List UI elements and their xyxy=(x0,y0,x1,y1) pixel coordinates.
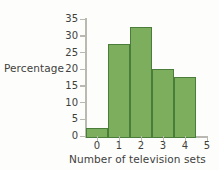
y-tick-label-10-wrap: 10 xyxy=(58,98,78,108)
y-tick-label-15-wrap: 15 xyxy=(58,81,78,91)
y-tick-label-30: 30 xyxy=(58,31,78,41)
y-tick-label-20-wrap: 20 xyxy=(58,64,78,74)
x-tick-label-2: 2 xyxy=(133,140,149,152)
x-tick-label-5: 5 xyxy=(199,140,215,152)
y-tick-label-15: 15 xyxy=(58,81,78,91)
x-tick-label-3-wrap: 3 xyxy=(155,140,171,152)
y-tick-label-5: 5 xyxy=(58,114,78,124)
x-tick-label-0-wrap: 0 xyxy=(89,140,105,152)
bar-3 xyxy=(152,69,174,137)
bar-1 xyxy=(108,44,130,138)
x-tick-label-2-wrap: 2 xyxy=(133,140,149,152)
y-tick-label-25-wrap: 25 xyxy=(58,48,78,58)
x-tick-label-4-wrap: 4 xyxy=(177,140,193,152)
y-tick-label-35-wrap: 35 xyxy=(58,14,78,24)
x-tick-label-5-wrap: 5 xyxy=(199,140,215,152)
y-tick-mark-15 xyxy=(80,85,85,86)
y-tick-label-0: 0 xyxy=(58,131,78,141)
y-tick-label-10: 10 xyxy=(58,98,78,108)
y-axis-spine xyxy=(85,18,87,137)
y-tick-mark-10 xyxy=(80,102,85,103)
y-tick-label-5-wrap: 5 xyxy=(58,114,78,124)
plot-area: 0 5 10 15 20 25 30 35 xyxy=(0,0,219,170)
y-tick-mark-35 xyxy=(80,19,85,20)
y-tick-label-35: 35 xyxy=(58,14,78,24)
y-tick-label-20: 20 xyxy=(58,64,78,74)
x-tick-label-0: 0 xyxy=(89,140,105,152)
y-tick-mark-20 xyxy=(80,69,85,70)
bar-4 xyxy=(174,77,196,137)
y-tick-label-25: 25 xyxy=(58,48,78,58)
x-tick-label-1-wrap: 1 xyxy=(111,140,127,152)
y-tick-label-30-wrap: 30 xyxy=(58,31,78,41)
y-tick-mark-30 xyxy=(80,35,85,36)
y-tick-label-0-wrap: 0 xyxy=(58,131,78,141)
x-tick-label-4: 4 xyxy=(177,140,193,152)
x-tick-label-3: 3 xyxy=(155,140,171,152)
histogram-figure: Percentage 0 5 10 15 20 25 30 xyxy=(0,0,219,170)
y-tick-mark-25 xyxy=(80,52,85,53)
bar-2 xyxy=(130,27,152,138)
x-tick-label-1: 1 xyxy=(111,140,127,152)
y-tick-mark-5 xyxy=(80,119,85,120)
y-tick-mark-0 xyxy=(80,136,85,137)
x-axis-label: Number of television sets xyxy=(60,153,215,165)
